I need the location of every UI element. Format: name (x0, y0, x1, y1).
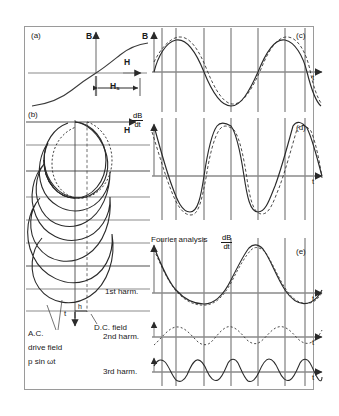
harmonic-label-3: 3rd harm. (103, 368, 137, 376)
panel-b-time-axis-label: t (64, 310, 66, 318)
fourier-analysis-label: Fourier analysis (151, 236, 207, 244)
harmonic-label-2: 2nd harm. (103, 333, 139, 341)
panel-e-y-axis-denominator: dt (221, 243, 232, 251)
right-gridlines (162, 28, 305, 386)
figure-root: (a) B H Hs (b) H t h A.C. drive field p … (0, 0, 339, 416)
panel-a-id: (a) (31, 32, 41, 40)
panel-b-group (26, 120, 150, 330)
panel-b-id: (b) (28, 111, 38, 119)
panel-b-dc-offset-label: h (78, 303, 82, 310)
panel-c-group (152, 32, 322, 106)
panel-b-dotted-wave (52, 122, 112, 198)
panel-d-x-axis-label: t (312, 178, 314, 186)
panel-a-x-axis-label: H (124, 58, 130, 67)
panel-e-harm3-x-axis-label: t (312, 374, 314, 382)
panel-c-x-axis-label: t (312, 74, 314, 82)
ac-note-line-2: drive field (28, 344, 62, 352)
ac-note-line-1: A.C. (28, 330, 44, 338)
panel-b-x-axis-label: H (124, 126, 130, 135)
panel-c-id: (c) (296, 32, 305, 40)
harmonic-label-1: 1st harm. (105, 288, 138, 296)
panel-a-group (28, 32, 148, 106)
ac-note-line-3: p sin ωt (28, 358, 56, 366)
panel-e-harm2-group (152, 322, 322, 345)
panel-e-harm2-x-axis-label: t (312, 339, 314, 347)
panel-e-harm3-group (152, 358, 322, 382)
dc-note: D.C. field (94, 324, 127, 332)
panel-c-y-axis-label: B (142, 32, 148, 41)
panel-a-y-axis-label: B (86, 32, 92, 41)
panel-a-saturation-span-label: Hs (110, 82, 119, 91)
panel-d-group (152, 122, 322, 215)
figure-canvas (0, 0, 339, 416)
panel-d-id: (d) (296, 124, 306, 132)
panel-d-y-axis-label: dB dt (132, 112, 143, 129)
panel-e-harm1-x-axis-label: t (312, 295, 314, 303)
panel-e-y-axis-label: dB dt (221, 234, 232, 251)
panel-a-span-subscript: s (116, 85, 119, 91)
panel-d-y-axis-denominator: dt (132, 121, 143, 129)
panel-e-id: (e) (296, 248, 306, 256)
